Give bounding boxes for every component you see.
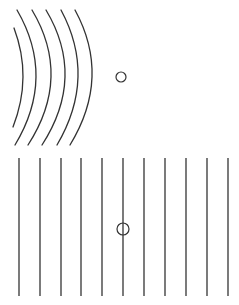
diagram-canvas [0,0,239,305]
curved-wavefront-4 [42,10,65,145]
curved-wavefront-6 [70,10,92,145]
plane-wavefronts-panel [19,158,228,296]
object-circle [116,72,126,82]
curved-wavefront-1 [13,28,23,127]
curved-wavefront-5 [57,10,78,145]
wavefront-diagram [0,0,239,305]
curved-wavefronts-panel [13,10,126,145]
curved-wavefront-2 [15,10,36,145]
curved-wavefront-3 [28,10,51,145]
